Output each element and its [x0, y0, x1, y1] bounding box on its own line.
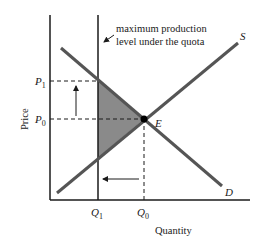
- annotation-arrow: [104, 35, 114, 42]
- demand-label: D: [224, 186, 233, 198]
- p0-label: P0: [34, 113, 46, 128]
- x-axis-title: Quantity: [155, 225, 192, 236]
- equilibrium-label: E: [154, 117, 162, 129]
- equilibrium-point: [141, 116, 148, 123]
- q0-label: Q0: [137, 206, 149, 221]
- supply-label: S: [240, 30, 246, 42]
- annotation-line-1: maximum production: [116, 23, 207, 34]
- quota-chart: maximum production level under the quota…: [0, 0, 265, 245]
- q1-label: Q1: [91, 206, 103, 221]
- annotation-line-2: level under the quota: [116, 36, 205, 47]
- supply-curve: [57, 43, 238, 193]
- p1-label: P1: [34, 75, 46, 90]
- y-axis-title: Price: [19, 108, 30, 130]
